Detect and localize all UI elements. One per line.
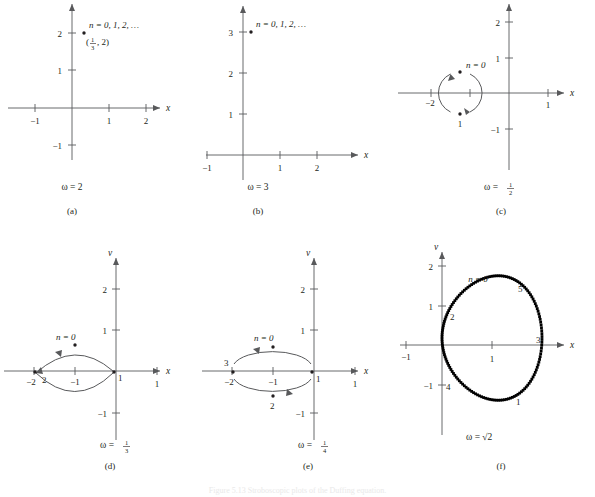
x-axis-arrow — [153, 105, 160, 111]
point-label: 5 — [518, 284, 523, 294]
y-tick-label: −1 — [97, 409, 107, 419]
y-tick-label: 2 — [103, 285, 108, 295]
y-axis-name: v — [306, 248, 311, 258]
omega-text: ω = — [484, 182, 498, 192]
orbit-dot — [537, 310, 540, 313]
data-point — [82, 31, 85, 34]
y-tick-label: 2 — [301, 285, 306, 295]
panel-sublabel: (e) — [303, 461, 313, 471]
coord-numerator: 1 — [91, 36, 94, 43]
panel-a: −1 1 2 2 1 −1 x n = 0, 1, 2, … ( 1 3 , 2… — [0, 0, 198, 220]
y-axis-arrow — [439, 252, 445, 259]
y-axis-arrow — [113, 258, 119, 265]
orbit-dot — [541, 332, 544, 335]
y-axis-name: v — [108, 248, 113, 258]
x-axis-name: x — [165, 366, 171, 376]
orbit-arrow — [55, 350, 62, 357]
omega-label-c: ω = 1 2 — [484, 181, 514, 196]
y-tick-label: 3 — [229, 28, 234, 38]
orbit-dot — [540, 350, 543, 353]
point-label: n = 0 — [466, 60, 486, 70]
x-axis-name: x — [165, 103, 171, 113]
y-tick-label: 1 — [301, 326, 306, 336]
x-tick-label: 1 — [107, 116, 112, 126]
data-point — [112, 370, 115, 373]
x-tick-label: −2 — [26, 377, 36, 387]
omega-label: ω = √2 — [466, 432, 493, 442]
x-axis-name: x — [569, 88, 575, 98]
point-label: 3 — [224, 358, 229, 368]
orbit-dot — [539, 321, 542, 324]
y-axis-name: v — [434, 242, 439, 252]
data-point — [310, 370, 313, 373]
point-label: n = 0, 1, 2, … — [256, 19, 306, 29]
x-axis-name: x — [363, 366, 369, 376]
omega-label-d: ω = 1 3 — [100, 439, 130, 454]
y-tick-label: 2 — [429, 262, 434, 272]
point-label: 1 — [458, 119, 463, 129]
point-label: 4 — [446, 382, 451, 392]
omega-label-e: ω = 1 4 — [298, 439, 328, 454]
x-axis-arrow — [557, 90, 564, 96]
figure-container: −1 1 2 2 1 −1 x n = 0, 1, 2, … ( 1 3 , 2… — [0, 0, 595, 497]
y-axis-arrow — [240, 6, 246, 13]
y-axis-arrow — [506, 4, 512, 11]
orbit-dot — [540, 329, 543, 332]
orbit-dot — [534, 302, 537, 305]
orbit-dot — [541, 338, 544, 341]
y-tick-label: 1 — [429, 302, 434, 312]
point-label: 2 — [42, 375, 47, 385]
x-tick-label: 1 — [155, 379, 160, 389]
x-axis-arrow — [351, 152, 358, 158]
panel-sublabel: (b) — [253, 206, 264, 216]
panel-e: −2 −1 1 2 1 −1 x v n = 0 1 2 3 ω = — [198, 240, 396, 470]
orbit-path-c — [438, 74, 482, 115]
figure-caption: Figure 5.13 Stroboscopic plots of the Du… — [0, 486, 595, 495]
axes-e — [202, 258, 358, 440]
x-tick-label: −1 — [70, 377, 80, 387]
y-tick-label: 1 — [103, 326, 108, 336]
y-tick-label: 2 — [229, 69, 234, 79]
point-label: n = 0 — [468, 274, 488, 284]
orbit-dot — [541, 341, 544, 344]
y-tick-label: −1 — [423, 381, 433, 391]
y-tick-label: 2 — [58, 29, 63, 39]
point-label: 1 — [118, 373, 123, 383]
data-point — [33, 370, 36, 373]
omega-denominator: 3 — [125, 447, 128, 454]
orbit-dot — [540, 324, 543, 327]
omega-numerator: 1 — [323, 439, 326, 446]
y-tick-label: −1 — [295, 409, 305, 419]
x-axis-name: x — [569, 340, 575, 350]
x-axis-arrow — [351, 368, 358, 374]
orbit-dot — [537, 363, 540, 366]
orbit-dot — [538, 315, 541, 318]
omega-numerator: 1 — [509, 181, 512, 188]
point-label: n = 0, 1, 2, … — [89, 20, 139, 30]
point-label: 2 — [270, 401, 275, 411]
panel-b: −1 1 2 3 2 1 x n = 0, 1, 2, … ω = 3 (b) — [198, 0, 396, 220]
orbit-dot — [540, 347, 543, 350]
y-tick-label: 1 — [496, 54, 501, 64]
coordinate-label: ( 1 3 , 2) — [86, 36, 109, 51]
y-tick-label: 1 — [58, 66, 63, 76]
orbit-dot — [540, 326, 543, 329]
point-label: 3 — [536, 335, 541, 345]
x-tick-label: 1 — [278, 163, 283, 173]
omega-numerator: 1 — [125, 439, 128, 446]
x-tick-label: −1 — [30, 116, 40, 126]
omega-label: ω = 2 — [61, 182, 82, 192]
x-tick-label: −1 — [401, 352, 411, 362]
point-label: n = 0 — [56, 332, 76, 342]
omega-text: ω = — [100, 440, 114, 450]
coord-second: , 2) — [97, 37, 109, 47]
orbit-path-e — [234, 347, 311, 396]
omega-denominator: 4 — [323, 447, 327, 454]
y-axis-arrow — [311, 258, 317, 265]
x-tick-label: −1 — [202, 163, 212, 173]
orbit-dot — [536, 307, 539, 310]
orbit-dot — [541, 335, 544, 338]
y-axis-arrow — [69, 4, 75, 11]
y-tick-label: 1 — [229, 110, 234, 120]
orbit-dot — [537, 312, 540, 315]
